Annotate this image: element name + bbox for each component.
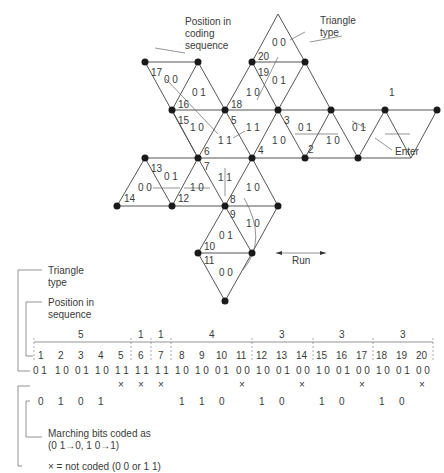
svg-text:1 0: 1 0 <box>316 365 330 376</box>
run-spans: 5 1 1 4 3 3 3 <box>34 329 433 362</box>
svg-text:17: 17 <box>356 350 368 361</box>
svg-text:sequence: sequence <box>48 309 92 320</box>
svg-text:14: 14 <box>296 350 308 361</box>
svg-text:12: 12 <box>256 350 268 361</box>
svg-text:3: 3 <box>400 329 406 340</box>
sequence-positions: 1 2 3 4 5 6 7 8 9 10 11 12 13 14 15 16 1… <box>38 350 428 361</box>
svg-text:0: 0 <box>339 396 345 407</box>
svg-text:9: 9 <box>230 209 236 220</box>
svg-text:1: 1 <box>379 396 385 407</box>
svg-text:7: 7 <box>204 161 210 172</box>
svg-text:1 1: 1 1 <box>115 365 129 376</box>
svg-text:11: 11 <box>204 255 215 266</box>
svg-text:1 0: 1 0 <box>326 135 340 146</box>
svg-text:1: 1 <box>58 396 64 407</box>
svg-text:×: × <box>299 379 305 390</box>
svg-text:0 1: 0 1 <box>33 365 47 376</box>
svg-text:0 1: 0 1 <box>352 122 366 133</box>
svg-text:1 0: 1 0 <box>246 218 260 229</box>
svg-text:0: 0 <box>279 396 285 407</box>
svg-text:1 1: 1 1 <box>155 365 169 376</box>
svg-text:13: 13 <box>276 350 288 361</box>
svg-text:1 0: 1 0 <box>272 135 286 146</box>
sequence-not-coded: × × × × × × × <box>118 379 425 390</box>
svg-text:1 1: 1 1 <box>135 365 149 376</box>
svg-text:Marching bits coded as: Marching bits coded as <box>48 428 151 439</box>
svg-text:13: 13 <box>151 163 163 174</box>
svg-text:Run: Run <box>292 255 310 266</box>
svg-text:0 1: 0 1 <box>276 365 290 376</box>
svg-text:×: × <box>239 379 245 390</box>
svg-text:0 1: 0 1 <box>215 365 229 376</box>
svg-text:15: 15 <box>316 350 328 361</box>
svg-text:0 0: 0 0 <box>138 182 152 193</box>
svg-text:1 1: 1 1 <box>218 135 232 146</box>
svg-text:0 1: 0 1 <box>219 230 233 241</box>
svg-text:(0 1→0, 1 0→1): (0 1→0, 1 0→1) <box>48 440 119 451</box>
svg-text:1 0: 1 0 <box>95 365 109 376</box>
svg-text:9: 9 <box>199 350 205 361</box>
svg-text:20: 20 <box>258 51 270 62</box>
svg-text:4: 4 <box>258 145 264 156</box>
svg-text:1: 1 <box>179 396 185 407</box>
mesh-edges <box>117 14 437 301</box>
svg-text:0 0: 0 0 <box>219 267 233 278</box>
svg-text:11: 11 <box>236 350 247 361</box>
svg-text:10: 10 <box>204 241 216 252</box>
svg-text:18: 18 <box>376 350 388 361</box>
svg-text:0: 0 <box>38 396 44 407</box>
svg-text:type: type <box>48 277 67 288</box>
svg-text:0 0: 0 0 <box>356 365 370 376</box>
svg-text:0: 0 <box>219 396 225 407</box>
svg-text:0 1: 0 1 <box>396 365 410 376</box>
svg-text:10: 10 <box>216 350 228 361</box>
svg-text:0 1: 0 1 <box>75 365 89 376</box>
svg-text:Position in: Position in <box>48 297 94 308</box>
svg-text:1: 1 <box>98 396 104 407</box>
svg-text:0 1: 0 1 <box>192 87 206 98</box>
marching-path <box>153 32 410 270</box>
svg-text:1: 1 <box>38 350 44 361</box>
svg-text:3: 3 <box>284 115 290 126</box>
svg-text:8: 8 <box>179 350 185 361</box>
svg-text:1 0: 1 0 <box>195 365 209 376</box>
svg-text:0 0: 0 0 <box>296 365 310 376</box>
sequence-types: 0 1 1 0 0 1 1 0 1 1 1 1 1 1 1 0 1 0 0 1 … <box>33 365 430 376</box>
svg-text:1 0: 1 0 <box>175 365 189 376</box>
svg-text:14: 14 <box>124 193 136 204</box>
svg-text:5: 5 <box>78 329 84 340</box>
svg-text:1 0: 1 0 <box>55 365 69 376</box>
svg-text:0 0: 0 0 <box>416 365 430 376</box>
svg-text:0: 0 <box>399 396 405 407</box>
svg-text:4: 4 <box>98 350 104 361</box>
svg-text:1: 1 <box>319 396 325 407</box>
svg-text:×: × <box>158 379 164 390</box>
svg-text:16: 16 <box>178 99 190 110</box>
svg-text:17: 17 <box>151 67 163 78</box>
svg-text:1 0: 1 0 <box>190 122 204 133</box>
svg-text:0 0: 0 0 <box>236 365 250 376</box>
svg-text:Triangle: Triangle <box>320 15 356 26</box>
svg-text:15: 15 <box>178 115 190 126</box>
svg-text:0 1: 0 1 <box>164 171 178 182</box>
svg-text:0 0: 0 0 <box>272 37 286 48</box>
svg-text:×: × <box>419 379 425 390</box>
svg-text:19: 19 <box>258 67 270 78</box>
svg-text:0 1: 0 1 <box>298 122 312 133</box>
svg-text:1 0: 1 0 <box>246 87 260 98</box>
triangle-strip-diagram: 1 2 3 4 5 6 7 8 9 10 11 12 13 14 15 16 1… <box>0 0 444 473</box>
svg-text:coding: coding <box>185 28 214 39</box>
svg-text:1: 1 <box>158 329 164 340</box>
svg-text:3: 3 <box>339 329 345 340</box>
svg-text:0: 0 <box>78 396 84 407</box>
svg-text:0 0: 0 0 <box>164 74 178 85</box>
svg-text:1: 1 <box>389 87 395 98</box>
svg-text:1 1: 1 1 <box>218 172 232 183</box>
svg-text:0 1: 0 1 <box>336 365 350 376</box>
svg-text:18: 18 <box>231 99 243 110</box>
svg-text:5: 5 <box>231 115 237 126</box>
svg-text:3: 3 <box>78 350 84 361</box>
svg-text:3: 3 <box>279 329 285 340</box>
svg-text:× = not coded (0 0 or 1 1): × = not coded (0 0 or 1 1) <box>48 461 161 472</box>
svg-text:type: type <box>320 27 339 38</box>
